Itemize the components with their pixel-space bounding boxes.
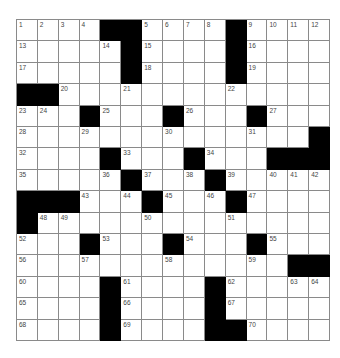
crossword-cell[interactable]	[142, 255, 163, 276]
crossword-cell[interactable]	[100, 191, 121, 212]
crossword-cell[interactable]: 58	[163, 255, 184, 276]
crossword-cell[interactable]: 55	[267, 234, 288, 255]
crossword-cell[interactable]	[288, 127, 309, 148]
crossword-cell[interactable]	[59, 255, 80, 276]
crossword-cell[interactable]	[267, 41, 288, 62]
crossword-cell[interactable]: 41	[288, 170, 309, 191]
crossword-cell[interactable]: 52	[17, 234, 38, 255]
crossword-cell[interactable]	[142, 84, 163, 105]
crossword-cell[interactable]	[288, 63, 309, 84]
crossword-cell[interactable]	[163, 41, 184, 62]
crossword-cell[interactable]	[38, 148, 59, 169]
crossword-cell[interactable]: 21	[121, 84, 142, 105]
crossword-cell[interactable]: 30	[163, 127, 184, 148]
crossword-cell[interactable]: 12	[309, 20, 330, 41]
crossword-cell[interactable]	[267, 213, 288, 234]
crossword-cell[interactable]: 16	[247, 41, 268, 62]
crossword-cell[interactable]: 70	[247, 320, 268, 341]
crossword-cell[interactable]: 65	[17, 298, 38, 319]
crossword-cell[interactable]	[59, 298, 80, 319]
crossword-cell[interactable]: 42	[309, 170, 330, 191]
crossword-cell[interactable]	[288, 41, 309, 62]
crossword-cell[interactable]	[38, 63, 59, 84]
crossword-cell[interactable]	[309, 320, 330, 341]
crossword-cell[interactable]	[100, 127, 121, 148]
crossword-cell[interactable]	[288, 298, 309, 319]
crossword-cell[interactable]	[247, 84, 268, 105]
crossword-cell[interactable]: 17	[17, 63, 38, 84]
crossword-cell[interactable]	[267, 63, 288, 84]
crossword-cell[interactable]	[226, 234, 247, 255]
crossword-cell[interactable]	[184, 298, 205, 319]
crossword-cell[interactable]: 3	[59, 20, 80, 41]
crossword-cell[interactable]	[309, 106, 330, 127]
crossword-cell[interactable]: 33	[121, 148, 142, 169]
crossword-cell[interactable]: 29	[80, 127, 101, 148]
crossword-cell[interactable]	[59, 63, 80, 84]
crossword-cell[interactable]	[100, 84, 121, 105]
crossword-cell[interactable]	[309, 191, 330, 212]
crossword-cell[interactable]	[80, 213, 101, 234]
crossword-cell[interactable]	[142, 234, 163, 255]
crossword-cell[interactable]: 46	[205, 191, 226, 212]
crossword-cell[interactable]	[163, 277, 184, 298]
crossword-cell[interactable]: 59	[247, 255, 268, 276]
crossword-cell[interactable]: 39	[226, 170, 247, 191]
crossword-cell[interactable]: 47	[247, 191, 268, 212]
crossword-cell[interactable]	[247, 298, 268, 319]
crossword-cell[interactable]: 38	[184, 170, 205, 191]
crossword-cell[interactable]	[38, 170, 59, 191]
crossword-cell[interactable]: 4	[80, 20, 101, 41]
crossword-cell[interactable]: 61	[121, 277, 142, 298]
crossword-cell[interactable]: 5	[142, 20, 163, 41]
crossword-cell[interactable]: 34	[205, 148, 226, 169]
crossword-cell[interactable]	[163, 84, 184, 105]
crossword-cell[interactable]	[100, 63, 121, 84]
crossword-cell[interactable]	[38, 234, 59, 255]
crossword-cell[interactable]	[38, 41, 59, 62]
crossword-cell[interactable]	[184, 84, 205, 105]
crossword-cell[interactable]	[205, 63, 226, 84]
crossword-cell[interactable]: 13	[17, 41, 38, 62]
crossword-cell[interactable]: 2	[38, 20, 59, 41]
crossword-cell[interactable]	[163, 298, 184, 319]
crossword-cell[interactable]	[59, 127, 80, 148]
crossword-cell[interactable]	[288, 106, 309, 127]
crossword-cell[interactable]: 56	[17, 255, 38, 276]
crossword-cell[interactable]: 40	[267, 170, 288, 191]
crossword-cell[interactable]: 57	[80, 255, 101, 276]
crossword-cell[interactable]	[59, 106, 80, 127]
crossword-cell[interactable]: 26	[184, 106, 205, 127]
crossword-cell[interactable]: 15	[142, 41, 163, 62]
crossword-cell[interactable]: 69	[121, 320, 142, 341]
crossword-cell[interactable]	[247, 148, 268, 169]
crossword-cell[interactable]	[80, 84, 101, 105]
crossword-cell[interactable]	[184, 320, 205, 341]
crossword-cell[interactable]	[80, 41, 101, 62]
crossword-cell[interactable]	[309, 213, 330, 234]
crossword-cell[interactable]: 36	[100, 170, 121, 191]
crossword-cell[interactable]	[59, 148, 80, 169]
crossword-cell[interactable]	[205, 106, 226, 127]
crossword-cell[interactable]	[142, 277, 163, 298]
crossword-cell[interactable]	[288, 234, 309, 255]
crossword-cell[interactable]	[80, 170, 101, 191]
crossword-cell[interactable]: 19	[247, 63, 268, 84]
crossword-cell[interactable]	[226, 106, 247, 127]
crossword-cell[interactable]	[121, 255, 142, 276]
crossword-cell[interactable]: 53	[100, 234, 121, 255]
crossword-cell[interactable]	[205, 41, 226, 62]
crossword-cell[interactable]	[59, 170, 80, 191]
crossword-cell[interactable]	[267, 127, 288, 148]
crossword-cell[interactable]: 49	[59, 213, 80, 234]
crossword-cell[interactable]	[80, 298, 101, 319]
crossword-cell[interactable]	[205, 234, 226, 255]
crossword-cell[interactable]: 14	[100, 41, 121, 62]
crossword-cell[interactable]	[59, 320, 80, 341]
crossword-cell[interactable]: 51	[226, 213, 247, 234]
crossword-cell[interactable]	[184, 191, 205, 212]
crossword-cell[interactable]	[142, 298, 163, 319]
crossword-cell[interactable]	[163, 170, 184, 191]
crossword-cell[interactable]	[205, 213, 226, 234]
crossword-cell[interactable]	[226, 127, 247, 148]
